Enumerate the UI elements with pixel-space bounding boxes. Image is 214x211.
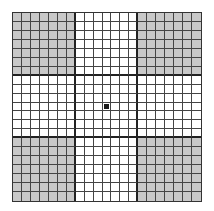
grid-cell[interactable] bbox=[103, 94, 112, 103]
grid-cell[interactable] bbox=[174, 76, 183, 85]
grid-cell[interactable] bbox=[67, 40, 76, 49]
grid-cell[interactable] bbox=[165, 129, 174, 138]
grid-cell[interactable] bbox=[138, 49, 147, 58]
grid-cell[interactable] bbox=[67, 129, 76, 138]
grid-cell[interactable] bbox=[94, 40, 103, 49]
grid-cell[interactable] bbox=[147, 129, 156, 138]
grid-cell[interactable] bbox=[49, 174, 58, 183]
grid-cell[interactable] bbox=[31, 103, 40, 112]
grid-cell[interactable] bbox=[85, 183, 94, 192]
grid-cell[interactable] bbox=[76, 192, 85, 201]
grid-cell[interactable] bbox=[22, 129, 31, 138]
grid-cell[interactable] bbox=[40, 138, 49, 147]
grid-cell[interactable] bbox=[120, 40, 129, 49]
grid-cell[interactable] bbox=[165, 58, 174, 67]
grid-cell[interactable] bbox=[147, 120, 156, 129]
grid-cell[interactable] bbox=[103, 111, 112, 120]
grid-cell[interactable] bbox=[13, 49, 22, 58]
grid-cell[interactable] bbox=[13, 192, 22, 201]
grid-cell[interactable] bbox=[31, 111, 40, 120]
grid-cell[interactable] bbox=[111, 183, 120, 192]
grid-cell[interactable] bbox=[103, 85, 112, 94]
grid-cell[interactable] bbox=[192, 111, 201, 120]
grid-cell[interactable] bbox=[85, 192, 94, 201]
grid-cell[interactable] bbox=[147, 49, 156, 58]
grid-cell[interactable] bbox=[58, 31, 67, 40]
grid-cell[interactable] bbox=[138, 183, 147, 192]
grid-cell[interactable] bbox=[138, 58, 147, 67]
grid-cell[interactable] bbox=[174, 174, 183, 183]
grid-cell[interactable] bbox=[183, 156, 192, 165]
grid-cell[interactable] bbox=[120, 94, 129, 103]
grid-cell[interactable] bbox=[156, 103, 165, 112]
grid-cell[interactable] bbox=[13, 129, 22, 138]
grid-cell[interactable] bbox=[103, 13, 112, 22]
grid-cell[interactable] bbox=[31, 85, 40, 94]
grid-cell[interactable] bbox=[85, 49, 94, 58]
grid-cell[interactable] bbox=[174, 138, 183, 147]
grid-cell[interactable] bbox=[40, 120, 49, 129]
grid-cell[interactable] bbox=[120, 138, 129, 147]
grid-cell[interactable] bbox=[156, 85, 165, 94]
grid-cell[interactable] bbox=[76, 31, 85, 40]
grid-cell[interactable] bbox=[49, 103, 58, 112]
grid-cell[interactable] bbox=[165, 103, 174, 112]
grid-cell[interactable] bbox=[49, 111, 58, 120]
grid-cell[interactable] bbox=[138, 129, 147, 138]
grid-cell[interactable] bbox=[67, 85, 76, 94]
grid-cell[interactable] bbox=[85, 85, 94, 94]
grid-cell[interactable] bbox=[129, 183, 138, 192]
grid-cell[interactable] bbox=[31, 94, 40, 103]
grid-cell[interactable] bbox=[40, 183, 49, 192]
grid-cell[interactable] bbox=[22, 58, 31, 67]
grid-cell[interactable] bbox=[111, 67, 120, 76]
grid-cell[interactable] bbox=[58, 138, 67, 147]
grid-cell[interactable] bbox=[103, 129, 112, 138]
grid-cell[interactable] bbox=[67, 103, 76, 112]
grid-cell[interactable] bbox=[165, 67, 174, 76]
grid-cell[interactable] bbox=[147, 94, 156, 103]
grid-cell[interactable] bbox=[183, 67, 192, 76]
grid-cell[interactable] bbox=[76, 94, 85, 103]
grid-cell[interactable] bbox=[129, 156, 138, 165]
grid-cell[interactable] bbox=[76, 120, 85, 129]
grid-cell[interactable] bbox=[192, 94, 201, 103]
grid-cell[interactable] bbox=[31, 76, 40, 85]
grid-cell[interactable] bbox=[156, 49, 165, 58]
grid-cell[interactable] bbox=[40, 111, 49, 120]
grid-cell[interactable] bbox=[13, 165, 22, 174]
grid-cell[interactable] bbox=[58, 156, 67, 165]
grid-cell[interactable] bbox=[85, 156, 94, 165]
grid-cell[interactable] bbox=[174, 58, 183, 67]
grid-cell[interactable] bbox=[76, 138, 85, 147]
grid-cell[interactable] bbox=[13, 103, 22, 112]
grid-cell[interactable] bbox=[49, 58, 58, 67]
grid-cell[interactable] bbox=[85, 40, 94, 49]
grid-cell[interactable] bbox=[138, 103, 147, 112]
grid-cell[interactable] bbox=[22, 165, 31, 174]
grid-cell[interactable] bbox=[156, 147, 165, 156]
grid-cell[interactable] bbox=[76, 85, 85, 94]
grid-cell[interactable] bbox=[147, 183, 156, 192]
grid-cell[interactable] bbox=[22, 156, 31, 165]
grid-cell[interactable] bbox=[183, 103, 192, 112]
grid-cell[interactable] bbox=[111, 40, 120, 49]
grid-cell[interactable] bbox=[31, 174, 40, 183]
grid-cell[interactable] bbox=[120, 192, 129, 201]
grid-cell[interactable] bbox=[76, 156, 85, 165]
grid-cell[interactable] bbox=[183, 94, 192, 103]
grid-cell[interactable] bbox=[76, 147, 85, 156]
grid-cell[interactable] bbox=[183, 40, 192, 49]
grid-cell[interactable] bbox=[13, 94, 22, 103]
grid-cell[interactable] bbox=[138, 174, 147, 183]
grid-cell[interactable] bbox=[192, 31, 201, 40]
grid-cell[interactable] bbox=[183, 120, 192, 129]
grid-cell[interactable] bbox=[13, 67, 22, 76]
grid-cell[interactable] bbox=[174, 192, 183, 201]
grid-cell[interactable] bbox=[156, 76, 165, 85]
grid-cell[interactable] bbox=[58, 165, 67, 174]
grid-cell[interactable] bbox=[76, 165, 85, 174]
grid-cell[interactable] bbox=[22, 85, 31, 94]
grid-cell[interactable] bbox=[85, 94, 94, 103]
grid-cell[interactable] bbox=[49, 147, 58, 156]
